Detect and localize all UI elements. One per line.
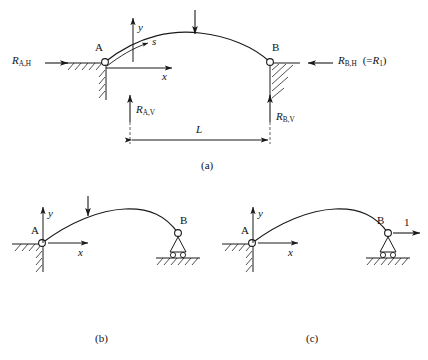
pin-b-b xyxy=(175,230,182,237)
reaction-a-vertical-label: RA,V xyxy=(136,104,155,115)
roller-wheel-left-c xyxy=(380,252,385,257)
node-label-b: B xyxy=(272,42,279,53)
figure-root: A B y x s RA,H RA,V RB,H(=R1) RB,V L (a)… xyxy=(0,0,428,360)
panel-b xyxy=(12,196,200,272)
reaction-a-v-subscript: A,V xyxy=(143,109,155,117)
support-b-hatching xyxy=(272,64,293,98)
pin-b xyxy=(267,59,274,66)
x-axis-label: x xyxy=(162,71,167,82)
roller-ground-hatching-c xyxy=(367,258,408,265)
pin-a-b xyxy=(39,240,46,247)
node-label-a: A xyxy=(95,42,103,53)
reaction-b-horizontal-label: RB,H(=R1) xyxy=(338,55,387,66)
arc-length-label: s xyxy=(152,36,156,47)
pin-a xyxy=(102,59,109,66)
support-a-hatching-b xyxy=(15,244,42,272)
caption-a: (a) xyxy=(201,160,213,171)
reaction-b-v-subscript: B,V xyxy=(283,116,295,124)
support-a-hatching-c xyxy=(225,244,252,272)
span-dimension-label: L xyxy=(196,124,202,135)
roller-wheel-left-b xyxy=(170,252,175,257)
reaction-b-h-subscript: B,H xyxy=(345,60,357,68)
reaction-b-v-symbol: R xyxy=(276,110,283,122)
reaction-b-h-note-suffix: ) xyxy=(383,54,387,66)
roller-ground-hatching-b xyxy=(157,258,198,265)
pin-a-c xyxy=(249,240,256,247)
arch-curve-c xyxy=(252,209,388,243)
caption-c: (c) xyxy=(306,333,318,344)
reaction-a-h-subscript: A,H xyxy=(19,60,31,68)
reaction-b-h-note-prefix: (= xyxy=(363,54,373,66)
reaction-b-h-symbol: R xyxy=(338,54,345,66)
x-axis-label-c: x xyxy=(288,247,293,258)
roller-wheel-right-c xyxy=(390,252,395,257)
pin-b-c xyxy=(385,230,392,237)
reaction-a-horizontal-label: RA,H xyxy=(12,55,31,66)
reaction-b-h-note-subscript: 1 xyxy=(379,60,383,68)
node-label-a-c: A xyxy=(241,225,249,236)
arch-curve xyxy=(105,32,270,62)
node-label-b-c: B xyxy=(377,215,384,226)
roller-wheel-right-b xyxy=(180,252,185,257)
node-label-b-b: B xyxy=(180,215,187,226)
y-axis-label-c: y xyxy=(258,208,263,219)
roller-triangle-b xyxy=(170,237,186,252)
caption-b: (b) xyxy=(95,333,108,344)
y-axis-label-b: y xyxy=(48,208,53,219)
reaction-b-vertical-label: RB,V xyxy=(276,111,295,122)
arch-curve-b xyxy=(42,209,178,243)
support-a-hatching xyxy=(68,63,105,98)
y-axis-label: y xyxy=(138,22,143,33)
reaction-a-h-symbol: R xyxy=(12,54,19,66)
reaction-a-v-symbol: R xyxy=(136,103,143,115)
roller-triangle-c xyxy=(380,237,396,252)
unit-load-label-c: 1 xyxy=(404,217,410,228)
node-label-a-b: A xyxy=(31,225,39,236)
panel-c xyxy=(222,207,420,272)
x-axis-label-b: x xyxy=(78,247,83,258)
